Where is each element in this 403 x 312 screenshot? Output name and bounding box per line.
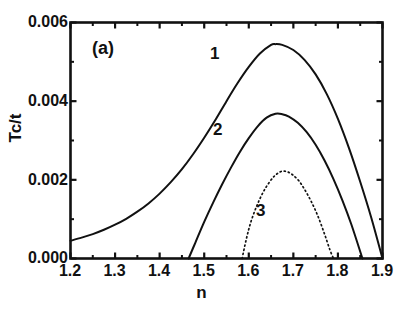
curve-3 — [242, 171, 333, 258]
figure-panel-a: Tc/t 0.006 0.004 0.002 0.000 1.2 1.3 1.4… — [0, 0, 403, 312]
curves-layer — [71, 44, 383, 259]
curve-1 — [71, 44, 383, 259]
plot-area — [0, 0, 403, 312]
curve-2 — [189, 113, 363, 258]
